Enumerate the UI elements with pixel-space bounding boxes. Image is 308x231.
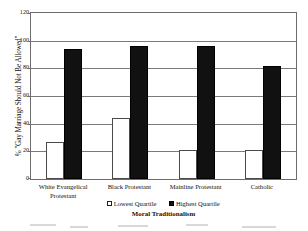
y-axis-tick [28, 68, 31, 69]
y-axis-tick [28, 151, 31, 152]
legend-label: Lowest Quartile [114, 200, 157, 207]
y-axis-tick [28, 41, 31, 42]
y-axis-tick-labels: 020406080100120 [14, 10, 29, 182]
bar-highest-quartile [263, 66, 281, 179]
y-axis-tick-label: 0 [14, 175, 29, 181]
x-axis-category-line: Black Protestant [96, 183, 162, 192]
x-axis-category-label: Black Protestant [96, 183, 162, 192]
legend-item: Highest Quartile [169, 200, 219, 207]
y-axis-tick [28, 178, 31, 179]
open-square-icon [107, 201, 112, 206]
x-axis-category-line: Catholic [229, 183, 295, 192]
bar-lowest-quartile [112, 118, 130, 179]
bar-highest-quartile [130, 46, 148, 179]
x-axis-category-label: Catholic [229, 183, 295, 192]
y-axis-tick-label: 40 [14, 120, 29, 126]
scan-artifact [30, 224, 56, 226]
scan-artifact [242, 226, 276, 228]
y-axis-tick-label: 120 [14, 9, 29, 15]
bar-highest-quartile [197, 46, 215, 179]
y-axis-tick-label: 80 [14, 64, 29, 70]
x-axis-category-label: Mainline Protestant [163, 183, 229, 192]
gridline [31, 41, 296, 42]
y-axis-tick [28, 124, 31, 125]
bar-lowest-quartile [46, 142, 64, 179]
y-axis-tick [28, 13, 31, 14]
filled-square-icon [169, 201, 174, 206]
y-axis-tick-label: 60 [14, 92, 29, 98]
chart-figure: % "Gay Marriage Should Not Be Allowed" 0… [0, 0, 308, 231]
x-axis-category-line: Mainline Protestant [163, 183, 229, 192]
plot-area [30, 12, 297, 180]
bar-lowest-quartile [245, 150, 263, 179]
scan-artifacts [0, 224, 308, 231]
x-axis-category-line: White Evangelical [30, 183, 96, 192]
scan-artifact [186, 224, 208, 226]
scan-artifact [118, 225, 148, 227]
y-axis-tick [28, 96, 31, 97]
x-axis-title: Moral Traditionalism [30, 210, 297, 217]
y-axis-tick-label: 20 [14, 147, 29, 153]
y-axis-tick-label: 100 [14, 37, 29, 43]
bar-highest-quartile [64, 49, 82, 179]
scan-artifact [70, 226, 88, 228]
legend-item: Lowest Quartile [107, 200, 156, 207]
legend-label: Highest Quartile [176, 200, 220, 207]
bar-lowest-quartile [179, 150, 197, 179]
chart-legend: Lowest QuartileHighest Quartile [30, 197, 297, 209]
